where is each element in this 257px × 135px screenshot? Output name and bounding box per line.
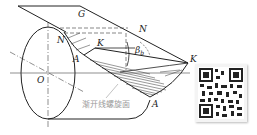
label-beta: βb <box>134 45 144 56</box>
involute-helicoid-diagram: G N N K K A A O βb 渐开线螺旋面 <box>0 0 257 135</box>
label-a-bottom: A <box>151 99 159 109</box>
caption-leader <box>106 84 118 98</box>
label-k-mid: K <box>96 38 105 48</box>
label-n-left: N <box>56 35 66 45</box>
plane-g-edge <box>18 6 188 63</box>
helicoid-bottom-edge <box>84 55 188 97</box>
qr-code <box>195 64 247 122</box>
caption-involute-helicoid: 渐开线螺旋面 <box>82 99 130 109</box>
label-k-right: K <box>189 54 198 64</box>
qr-code-icon <box>195 64 247 122</box>
helicoid-hatching <box>68 33 182 95</box>
label-origin-o: O <box>37 75 45 85</box>
angle-arc-left <box>127 42 129 66</box>
label-plane-g: G <box>78 9 85 19</box>
helicoid-mid-curve <box>120 63 188 72</box>
label-n-top: N <box>138 24 148 34</box>
label-a-left: A <box>72 54 80 64</box>
